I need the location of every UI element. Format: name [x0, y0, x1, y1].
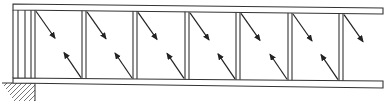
arrow-down-right-icon [138, 12, 157, 39]
ground-support [0, 83, 77, 103]
frame-diagram-svg [0, 0, 387, 108]
arrow-down-right-icon [293, 14, 312, 41]
top-beam [13, 4, 383, 14]
beams [13, 4, 383, 88]
arrow-up-left-icon [64, 53, 81, 78]
arrow-down-right-icon [344, 15, 363, 42]
arrow-up-left-icon [167, 53, 184, 78]
arrow-up-left-icon [115, 53, 132, 78]
arrow-up-left-icon [270, 54, 287, 79]
arrow-down-right-icon [241, 13, 260, 40]
frame-diagram [0, 0, 387, 108]
bottom-beam [13, 78, 383, 88]
force-arrows [36, 11, 363, 79]
arrow-down-right-icon [87, 12, 106, 39]
ground-hatching [0, 83, 77, 103]
arrow-up-left-icon [218, 54, 235, 79]
arrow-up-left-icon [321, 55, 338, 80]
arrow-down-right-icon [36, 11, 55, 38]
arrow-down-right-icon [190, 13, 209, 40]
